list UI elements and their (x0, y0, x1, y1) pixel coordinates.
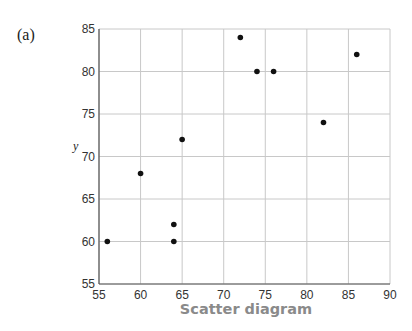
data-point (238, 35, 244, 41)
x-tick-label: 80 (300, 288, 314, 302)
grid (99, 29, 390, 284)
chart-title: Scatter diagram (0, 301, 412, 317)
data-point (179, 137, 185, 143)
x-tick-label: 60 (134, 288, 148, 302)
x-tick-labels: 5560657075808590 (92, 288, 397, 302)
y-tick-label: 80 (82, 65, 96, 79)
y-tick-labels: 55606570758085 (82, 22, 96, 291)
y-tick-label: 85 (82, 22, 96, 36)
data-point (138, 171, 144, 177)
x-tick-label: 65 (175, 288, 189, 302)
data-point (171, 222, 177, 228)
data-point (105, 239, 111, 245)
data-point (321, 120, 327, 126)
y-tick-label: 75 (82, 107, 96, 121)
x-tick-label: 90 (383, 288, 397, 302)
x-tick-label: 70 (217, 288, 231, 302)
y-tick-label: 55 (82, 277, 96, 291)
scatter-plot: 5560657075808590 55606570758085 (0, 0, 412, 331)
data-point (254, 69, 260, 75)
y-tick-label: 70 (82, 150, 96, 164)
data-point (171, 239, 177, 245)
y-tick-label: 60 (82, 235, 96, 249)
y-tick-label: 65 (82, 192, 96, 206)
data-point (354, 52, 360, 58)
data-points (105, 35, 360, 245)
x-tick-label: 75 (259, 288, 273, 302)
x-tick-label: 85 (342, 288, 356, 302)
data-point (271, 69, 277, 75)
